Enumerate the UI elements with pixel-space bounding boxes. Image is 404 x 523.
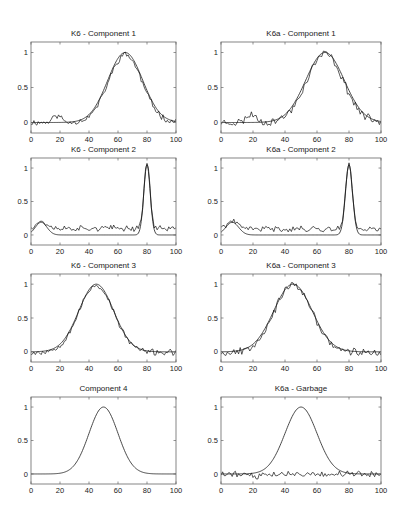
y-tick-label: 0.5 xyxy=(18,314,28,323)
y-tick-label: 0 xyxy=(214,231,218,240)
x-tick-label: 20 xyxy=(249,486,257,495)
series-estimate-line xyxy=(31,52,176,125)
x-tick-label: 0 xyxy=(29,135,33,144)
x-tick-label: 100 xyxy=(170,364,183,373)
x-tick-label: 0 xyxy=(219,486,223,495)
axes-frame xyxy=(31,42,176,133)
x-tick-label: 20 xyxy=(249,135,257,144)
x-tick-label: 80 xyxy=(143,486,151,495)
x-tick-label: 60 xyxy=(313,135,321,144)
series-true-line xyxy=(221,407,381,474)
y-tick-label: 1 xyxy=(24,403,28,412)
x-tick-label: 0 xyxy=(29,247,33,256)
series-estimate-line xyxy=(31,163,176,231)
x-tick-label: 100 xyxy=(170,135,183,144)
x-tick-label: 60 xyxy=(114,486,122,495)
subplot-title: K6a - Garbage xyxy=(275,384,328,393)
y-tick-label: 0 xyxy=(214,470,218,479)
x-tick-label: 60 xyxy=(313,364,321,373)
x-tick-label: 100 xyxy=(170,247,183,256)
y-tick-label: 1 xyxy=(214,164,218,173)
series-estimate-line xyxy=(221,283,381,356)
y-tick-label: 0 xyxy=(24,470,28,479)
series-garbage-line xyxy=(221,471,381,479)
x-tick-label: 80 xyxy=(143,364,151,373)
x-tick-label: 80 xyxy=(143,135,151,144)
subplot-title: K6a - Component 2 xyxy=(266,145,336,154)
x-tick-label: 20 xyxy=(56,486,64,495)
x-tick-label: 0 xyxy=(29,486,33,495)
series-true-line xyxy=(31,407,176,474)
x-tick-label: 20 xyxy=(56,247,64,256)
axes-frame xyxy=(221,397,381,484)
x-tick-label: 0 xyxy=(219,364,223,373)
x-tick-label: 80 xyxy=(345,364,353,373)
y-tick-label: 1 xyxy=(24,280,28,289)
y-tick-label: 1 xyxy=(24,164,28,173)
x-tick-label: 100 xyxy=(375,486,388,495)
x-tick-label: 40 xyxy=(85,486,93,495)
x-tick-label: 60 xyxy=(114,247,122,256)
y-tick-label: 0.5 xyxy=(18,436,28,445)
axes-frame xyxy=(221,42,381,133)
axes-frame xyxy=(31,158,176,245)
x-tick-label: 80 xyxy=(345,486,353,495)
series-true-line xyxy=(31,284,176,352)
series-true-line xyxy=(221,165,381,235)
y-tick-label: 0.5 xyxy=(18,83,28,92)
x-tick-label: 100 xyxy=(375,135,388,144)
series-estimate-line xyxy=(221,51,381,125)
subplot-title: Component 4 xyxy=(79,384,128,393)
subplot-7: Component 402040608010000.51 xyxy=(18,384,183,495)
x-tick-label: 40 xyxy=(85,247,93,256)
x-tick-label: 100 xyxy=(375,364,388,373)
y-tick-label: 1 xyxy=(214,280,218,289)
series-estimate-line xyxy=(221,163,381,232)
subplot-8: K6a - Garbage02040608010000.51 xyxy=(208,384,388,495)
subplot-title: K6a - Component 3 xyxy=(266,261,336,270)
x-tick-label: 100 xyxy=(170,486,183,495)
x-tick-label: 20 xyxy=(249,364,257,373)
subplot-1: K6 - Component 102040608010000.51 xyxy=(18,29,183,144)
x-tick-label: 60 xyxy=(114,135,122,144)
x-tick-label: 20 xyxy=(56,135,64,144)
y-tick-label: 0 xyxy=(24,347,28,356)
x-tick-label: 100 xyxy=(375,247,388,256)
y-tick-label: 0 xyxy=(214,347,218,356)
x-tick-label: 0 xyxy=(219,135,223,144)
x-tick-label: 40 xyxy=(281,364,289,373)
subplot-3: K6 - Component 202040608010000.51 xyxy=(18,145,183,256)
subplot-5: K6 - Component 302040608010000.51 xyxy=(18,261,183,373)
axes-frame xyxy=(221,158,381,245)
subplot-title: K6 - Component 3 xyxy=(71,261,136,270)
y-tick-label: 1 xyxy=(24,48,28,57)
x-tick-label: 80 xyxy=(345,247,353,256)
x-tick-label: 40 xyxy=(85,135,93,144)
subplot-title: K6 - Component 1 xyxy=(71,29,136,38)
y-tick-label: 0.5 xyxy=(208,197,218,206)
y-tick-label: 1 xyxy=(214,48,218,57)
x-tick-label: 40 xyxy=(85,364,93,373)
subplot-4: K6a - Component 202040608010000.51 xyxy=(208,145,388,256)
subplot-title: K6 - Component 2 xyxy=(71,145,136,154)
series-true-line xyxy=(221,284,381,352)
x-tick-label: 0 xyxy=(29,364,33,373)
subplot-title: K6a - Component 1 xyxy=(266,29,336,38)
x-tick-label: 80 xyxy=(345,135,353,144)
x-tick-label: 20 xyxy=(249,247,257,256)
series-true-line xyxy=(31,165,176,235)
x-tick-label: 40 xyxy=(281,486,289,495)
x-tick-label: 80 xyxy=(143,247,151,256)
y-tick-label: 0 xyxy=(24,118,28,127)
x-tick-label: 60 xyxy=(114,364,122,373)
y-tick-label: 0.5 xyxy=(208,314,218,323)
subplot-2: K6a - Component 102040608010000.51 xyxy=(208,29,388,144)
x-tick-label: 40 xyxy=(281,247,289,256)
y-tick-label: 0.5 xyxy=(208,436,218,445)
y-tick-label: 0 xyxy=(24,231,28,240)
x-tick-label: 60 xyxy=(313,247,321,256)
y-tick-label: 1 xyxy=(214,403,218,412)
figure-canvas: K6 - Component 102040608010000.51K6a - C… xyxy=(0,0,404,523)
x-tick-label: 0 xyxy=(219,247,223,256)
axes-frame xyxy=(31,397,176,484)
